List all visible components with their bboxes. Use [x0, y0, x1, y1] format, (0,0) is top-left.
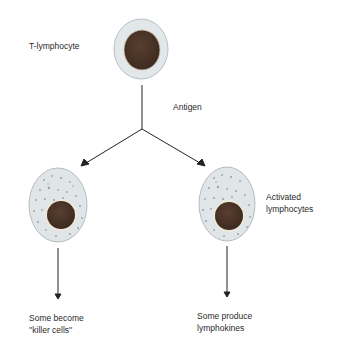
arrowhead-down-left-icon	[55, 294, 61, 299]
antigen-branch-arrows	[81, 85, 205, 166]
arrowhead-left-icon	[81, 159, 89, 166]
diagram-canvas	[0, 0, 337, 357]
activated-lymphocytes-label-line2: lymphocytes	[266, 203, 313, 215]
killer-cells-label-line2: ''killer cells''	[29, 324, 72, 336]
down-arrows	[55, 246, 230, 299]
activated-lymphocyte-right-icon	[199, 167, 255, 241]
arrowhead-down-right-icon	[224, 292, 230, 297]
t-lymphocyte-label: T-lymphocyte	[29, 40, 80, 52]
activated-lymphocyte-left-icon	[29, 168, 87, 242]
killer-cells-label-line1: Some become	[29, 312, 84, 324]
t-lymphocyte-cell-icon	[114, 19, 168, 79]
activated-lymphocytes-label-line1: Activated	[266, 191, 301, 203]
lymphokines-label-line2: lymphokines	[197, 322, 244, 334]
arrowhead-right-icon	[197, 159, 205, 166]
lymphokines-label-line1: Some produce	[197, 310, 252, 322]
antigen-label: Antigen	[173, 101, 202, 113]
